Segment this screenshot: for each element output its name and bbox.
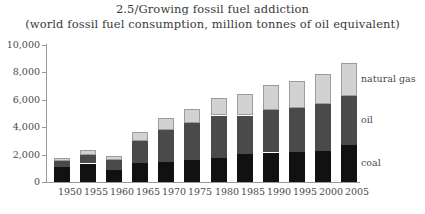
bar-segment-coal bbox=[132, 163, 148, 182]
bar-segment-oil bbox=[158, 130, 174, 162]
bar-segment-coal bbox=[211, 157, 227, 182]
bar bbox=[132, 0, 148, 214]
y-tick-label: 0 bbox=[0, 176, 40, 187]
legend-label-natural-gas: natural gas bbox=[361, 73, 416, 84]
y-tick-mark bbox=[42, 127, 47, 128]
bar-segment-natural-gas bbox=[158, 118, 174, 130]
bar-segment-natural-gas bbox=[106, 156, 122, 160]
bar-segment-oil bbox=[132, 141, 148, 163]
bar-segment-oil bbox=[237, 116, 253, 154]
bar-segment-natural-gas bbox=[211, 98, 227, 115]
bar-segment-coal bbox=[263, 153, 279, 182]
bar-segment-natural-gas bbox=[237, 94, 253, 115]
bar-segment-coal bbox=[289, 152, 305, 182]
bar-segment-oil bbox=[315, 104, 331, 151]
bar-segment-natural-gas bbox=[80, 150, 96, 155]
bar-segment-oil bbox=[263, 110, 279, 152]
bar-segment-natural-gas bbox=[184, 109, 200, 123]
legend-label-oil: oil bbox=[361, 114, 373, 125]
bar bbox=[263, 0, 279, 214]
bar bbox=[184, 0, 200, 214]
y-tick-label: 2,000 bbox=[0, 149, 40, 160]
y-tick-mark bbox=[42, 155, 47, 156]
bar-segment-natural-gas bbox=[263, 85, 279, 110]
bar-segment-coal bbox=[80, 164, 96, 182]
y-tick-label: 8,000 bbox=[0, 66, 40, 77]
bar bbox=[211, 0, 227, 214]
bar-segment-natural-gas bbox=[341, 63, 357, 96]
bar-segment-oil bbox=[106, 160, 122, 170]
bar-segment-natural-gas bbox=[315, 74, 331, 104]
bar bbox=[237, 0, 253, 214]
bar bbox=[315, 0, 331, 214]
y-tick-label: 6,000 bbox=[0, 94, 40, 105]
bar bbox=[54, 0, 70, 214]
bar bbox=[158, 0, 174, 214]
y-tick-mark bbox=[42, 72, 47, 73]
bar-segment-natural-gas bbox=[132, 132, 148, 141]
bar-segment-oil bbox=[341, 96, 357, 145]
bar-segment-oil bbox=[184, 123, 200, 160]
legend-label-coal: coal bbox=[361, 157, 381, 168]
bar-segment-natural-gas bbox=[289, 81, 305, 108]
y-axis-line bbox=[46, 44, 47, 183]
y-tick-mark bbox=[42, 45, 47, 46]
bar-segment-coal bbox=[106, 170, 122, 182]
y-tick-label: 4,000 bbox=[0, 121, 40, 132]
x-tick-label: 2005 bbox=[337, 186, 377, 197]
bar-segment-coal bbox=[184, 160, 200, 182]
bar-segment-coal bbox=[54, 167, 70, 182]
bar-segment-coal bbox=[237, 154, 253, 182]
y-tick-mark bbox=[42, 100, 47, 101]
bar-segment-coal bbox=[158, 161, 174, 182]
bar-segment-oil bbox=[289, 107, 305, 152]
bar-segment-oil bbox=[211, 116, 227, 158]
bar bbox=[289, 0, 305, 214]
bar-segment-oil bbox=[80, 155, 96, 163]
y-tick-label: 10,000 bbox=[0, 39, 40, 50]
bar-segment-coal bbox=[341, 144, 357, 182]
bar-segment-oil bbox=[54, 161, 70, 167]
bar-segment-natural-gas bbox=[54, 158, 70, 161]
bar-segment-coal bbox=[315, 151, 331, 182]
bar bbox=[80, 0, 96, 214]
y-tick-mark bbox=[42, 182, 47, 183]
bar bbox=[341, 0, 357, 214]
bar bbox=[106, 0, 122, 214]
chart-figure: 2.5/Growing fossil fuel addiction (world… bbox=[0, 0, 425, 214]
plot-area: 02,0004,0006,0008,00010,000 195019551960… bbox=[0, 0, 425, 214]
